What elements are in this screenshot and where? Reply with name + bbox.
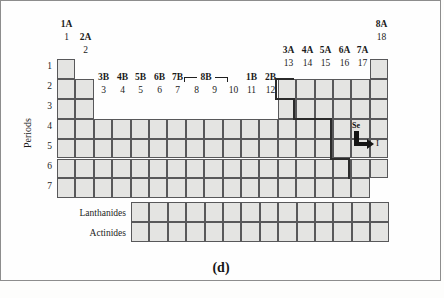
- element-cell[interactable]: [57, 59, 75, 79]
- element-cell[interactable]: [112, 139, 130, 159]
- f-block-cell[interactable]: [223, 222, 241, 242]
- element-cell[interactable]: [370, 99, 388, 119]
- element-cell[interactable]: [296, 178, 314, 198]
- f-block-cell[interactable]: [205, 202, 223, 222]
- element-cell[interactable]: [370, 159, 388, 179]
- element-cell[interactable]: [149, 119, 167, 139]
- element-cell[interactable]: [370, 119, 388, 139]
- f-block-cell[interactable]: [241, 222, 259, 242]
- element-cell[interactable]: [204, 119, 222, 139]
- element-cell[interactable]: [296, 79, 314, 99]
- f-block-cell[interactable]: [131, 222, 149, 242]
- f-block-cell[interactable]: [260, 202, 278, 222]
- f-block-cell[interactable]: [333, 222, 351, 242]
- element-cell[interactable]: [75, 139, 93, 159]
- element-cell[interactable]: [186, 178, 204, 198]
- element-cell[interactable]: [241, 159, 259, 179]
- element-cell[interactable]: [351, 79, 369, 99]
- element-cell[interactable]: [131, 119, 149, 139]
- f-block-cell[interactable]: [131, 202, 149, 222]
- f-block-cell[interactable]: [297, 222, 315, 242]
- element-cell[interactable]: [333, 119, 351, 139]
- f-block-cell[interactable]: [186, 222, 204, 242]
- element-cell[interactable]: [278, 178, 296, 198]
- element-cell[interactable]: [241, 139, 259, 159]
- element-cell[interactable]: [75, 119, 93, 139]
- element-cell[interactable]: [315, 79, 333, 99]
- element-cell[interactable]: [57, 99, 75, 119]
- element-cell[interactable]: [296, 119, 314, 139]
- element-cell[interactable]: [149, 139, 167, 159]
- element-cell[interactable]: [278, 159, 296, 179]
- element-cell[interactable]: [223, 139, 241, 159]
- element-cell[interactable]: [333, 178, 351, 198]
- element-cell[interactable]: [333, 79, 351, 99]
- element-cell[interactable]: [223, 178, 241, 198]
- element-cell[interactable]: [186, 139, 204, 159]
- f-block-cell[interactable]: [352, 202, 370, 222]
- f-block-cell[interactable]: [315, 222, 333, 242]
- element-cell[interactable]: [278, 139, 296, 159]
- f-block-cell[interactable]: [168, 202, 186, 222]
- element-cell[interactable]: [259, 178, 277, 198]
- element-cell[interactable]: [296, 139, 314, 159]
- element-cell[interactable]: [167, 178, 185, 198]
- f-block-cell[interactable]: [223, 202, 241, 222]
- element-cell[interactable]: [131, 178, 149, 198]
- f-block-cell[interactable]: [370, 222, 388, 242]
- element-cell[interactable]: [57, 79, 75, 99]
- element-cell[interactable]: [351, 178, 369, 198]
- element-cell[interactable]: [57, 178, 75, 198]
- element-cell[interactable]: [223, 119, 241, 139]
- element-cell[interactable]: [131, 139, 149, 159]
- f-block-cell[interactable]: [278, 202, 296, 222]
- element-cell[interactable]: [370, 79, 388, 99]
- element-cell[interactable]: [57, 119, 75, 139]
- element-cell[interactable]: [94, 178, 112, 198]
- element-cell[interactable]: [259, 139, 277, 159]
- element-cell[interactable]: [278, 79, 296, 99]
- element-cell[interactable]: [296, 159, 314, 179]
- f-block-cell[interactable]: [186, 202, 204, 222]
- element-cell[interactable]: [315, 99, 333, 119]
- element-cell[interactable]: [149, 159, 167, 179]
- f-block-cell[interactable]: [241, 202, 259, 222]
- element-cell[interactable]: [296, 99, 314, 119]
- element-cell[interactable]: [94, 159, 112, 179]
- element-cell[interactable]: [223, 159, 241, 179]
- element-cell[interactable]: [94, 139, 112, 159]
- element-cell[interactable]: [241, 178, 259, 198]
- element-cell[interactable]: [186, 119, 204, 139]
- element-cell[interactable]: [112, 178, 130, 198]
- element-cell[interactable]: [167, 159, 185, 179]
- f-block-cell[interactable]: [352, 222, 370, 242]
- element-cell[interactable]: [149, 178, 167, 198]
- element-cell[interactable]: [315, 159, 333, 179]
- element-cell[interactable]: [57, 139, 75, 159]
- element-cell[interactable]: [204, 139, 222, 159]
- f-block-cell[interactable]: [278, 222, 296, 242]
- f-block-cell[interactable]: [149, 202, 167, 222]
- element-cell[interactable]: [204, 178, 222, 198]
- element-cell[interactable]: [351, 159, 369, 179]
- element-cell[interactable]: [112, 119, 130, 139]
- f-block-cell[interactable]: [260, 222, 278, 242]
- element-cell[interactable]: [333, 139, 351, 159]
- element-cell[interactable]: [57, 159, 75, 179]
- f-block-cell[interactable]: [205, 222, 223, 242]
- f-block-cell[interactable]: [315, 202, 333, 222]
- element-cell[interactable]: [167, 119, 185, 139]
- element-cell[interactable]: [351, 99, 369, 119]
- element-cell[interactable]: [259, 119, 277, 139]
- element-cell[interactable]: [333, 99, 351, 119]
- f-block-cell[interactable]: [168, 222, 186, 242]
- element-cell[interactable]: [75, 99, 93, 119]
- f-block-cell[interactable]: [370, 202, 388, 222]
- element-cell[interactable]: [204, 159, 222, 179]
- element-cell[interactable]: [259, 159, 277, 179]
- element-cell[interactable]: [75, 159, 93, 179]
- element-cell[interactable]: [278, 119, 296, 139]
- element-cell[interactable]: [75, 178, 93, 198]
- element-cell[interactable]: [112, 159, 130, 179]
- element-cell[interactable]: [94, 119, 112, 139]
